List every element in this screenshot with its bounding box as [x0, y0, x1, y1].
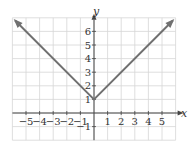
x-tick-label: 3 — [132, 116, 138, 127]
y-tick-label: −1 — [76, 121, 91, 132]
y-axis-label: y — [92, 5, 100, 18]
x-tick-label: 2 — [118, 116, 124, 127]
y-tick-label: 5 — [85, 40, 91, 51]
x-tick-label: 4 — [145, 116, 151, 127]
x-tick-label: −4 — [32, 116, 47, 127]
function-graph: −5−4−3−2−112345−1123456 x y — [0, 0, 193, 149]
y-tick-label: 6 — [85, 26, 91, 37]
y-tick-label: 3 — [85, 67, 91, 78]
y-tick-label: 4 — [85, 53, 91, 64]
x-tick-label: 1 — [104, 116, 110, 127]
x-axis-label: x — [181, 107, 188, 120]
x-tick-label: −3 — [46, 116, 61, 127]
x-tick-label: −2 — [59, 116, 74, 127]
x-tick-label: −5 — [19, 116, 34, 127]
tick-labels: −5−4−3−2−112345−1123456 — [19, 26, 166, 132]
x-tick-label: 5 — [159, 116, 165, 127]
